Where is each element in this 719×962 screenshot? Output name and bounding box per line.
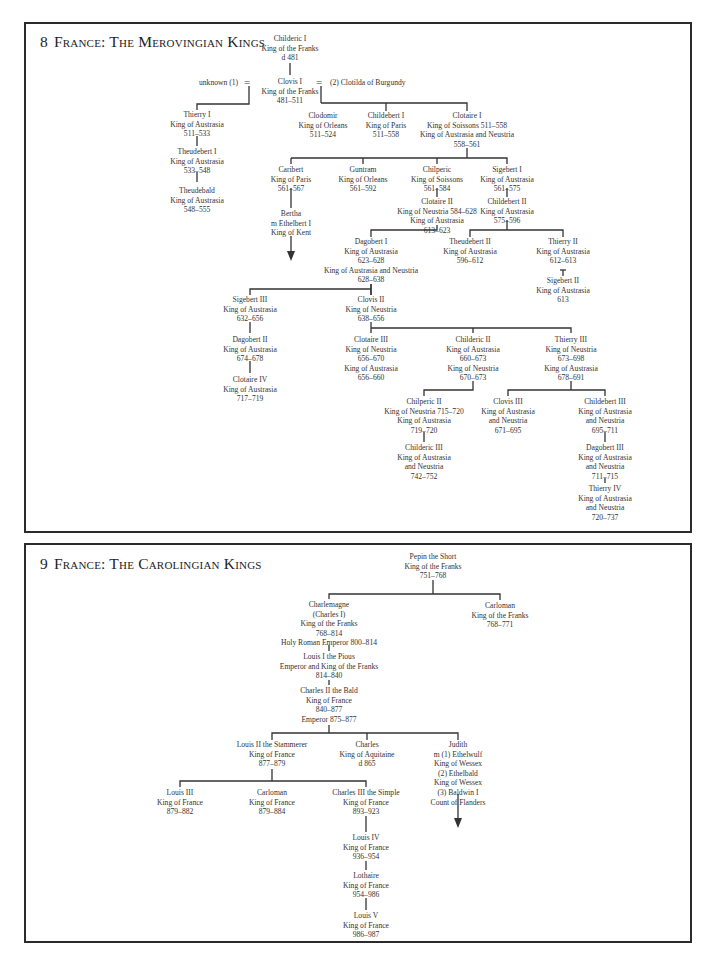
node-name: Thierry II bbox=[536, 237, 590, 247]
node-name: Charlemagne bbox=[281, 600, 377, 610]
node-title: King of the Franks bbox=[281, 619, 377, 629]
chart-title-carolingian: 9France: The Carolingian Kings bbox=[40, 555, 262, 573]
node-title: King of Austrasia bbox=[578, 453, 632, 463]
node-name: Bertha bbox=[271, 209, 311, 219]
node-title: King of Austrasia bbox=[480, 175, 534, 185]
node-dates: 623–628 bbox=[324, 256, 418, 266]
node-childebert-i: Childebert I King of Paris 511–558 bbox=[366, 111, 407, 140]
node-title: King of Austrasia bbox=[170, 120, 224, 130]
node-chilperic: Chilperic King of Soissons 561–584 bbox=[411, 165, 463, 194]
node-title: King of France bbox=[343, 921, 389, 931]
node-clovis-iii: Clovis III King of Austrasia and Neustri… bbox=[481, 397, 535, 435]
node-dates: d 481 bbox=[261, 53, 318, 63]
node-guntram: Guntram King of Orleans 561–592 bbox=[339, 165, 388, 194]
node-clodomir: Clodomir King of Orleans 511–524 bbox=[299, 111, 348, 140]
node-carloman-france: Carloman King of France 879–884 bbox=[249, 788, 295, 817]
node-dates: 814–840 bbox=[280, 671, 379, 681]
node-title: King of the Franks bbox=[261, 44, 318, 54]
node-title: King of Austrasia bbox=[480, 207, 534, 217]
node-dates: 742–752 bbox=[397, 472, 451, 482]
node-dates: 879–884 bbox=[249, 807, 295, 817]
node-dates: 678–691 bbox=[544, 373, 598, 383]
node-carloman-franks: Carloman King of the Franks 768–771 bbox=[471, 601, 528, 630]
node-sigebert-i: Sigebert I King of Austrasia 561–575 bbox=[480, 165, 534, 194]
node-title: Count of Flanders bbox=[431, 798, 486, 808]
chart-title-merovingian: 8France: The Merovingian Kings bbox=[40, 33, 265, 51]
node-dates: 561–584 bbox=[411, 184, 463, 194]
node-dates: 720–737 bbox=[578, 513, 632, 523]
node-title: King of Wessex bbox=[431, 759, 486, 769]
node-title: King of France bbox=[332, 798, 399, 808]
node-louis-iv: Louis IV King of France 936–954 bbox=[343, 833, 389, 862]
node-name: Childebert II bbox=[480, 197, 534, 207]
node-title: King of France bbox=[237, 750, 308, 760]
node-dates: 638–656 bbox=[345, 314, 396, 324]
node-clotaire-ii: Clotaire II King of Neustria 584–628 Kin… bbox=[397, 197, 477, 235]
node-dates: 670–673 bbox=[446, 373, 500, 383]
node-theudebert-ii: Theudebert II King of Austrasia 596–612 bbox=[443, 237, 497, 266]
chart-title-text: France: The Merovingian Kings bbox=[54, 33, 265, 50]
node-name: Clodomir bbox=[299, 111, 348, 121]
node-dates: 596–612 bbox=[443, 256, 497, 266]
node-thierry-iv: Thierry IV King of Austrasia and Neustri… bbox=[578, 484, 632, 522]
node-title: and Neustria bbox=[481, 416, 535, 426]
node-dates: 695–711 bbox=[578, 426, 632, 436]
node-name: Louis II the Stammerer bbox=[237, 740, 308, 750]
node-alias: (Charles I) bbox=[281, 610, 377, 620]
node-dates: 511–533 bbox=[170, 129, 224, 139]
node-title: King of Orleans bbox=[339, 175, 388, 185]
node-name: Clovis II bbox=[345, 295, 396, 305]
node-name: Carloman bbox=[249, 788, 295, 798]
node-title: King of Neustria bbox=[446, 364, 500, 374]
node-louis-i-the-pious: Louis I the Pious Emperor and King of th… bbox=[280, 652, 379, 681]
node-pepin-the-short: Pepin the Short King of the Franks 751–7… bbox=[404, 552, 461, 581]
node-dagobert-ii: Dagobert II King of Austrasia 674–678 bbox=[223, 335, 277, 364]
node-name: Clotaire III bbox=[344, 335, 398, 345]
node-dates: 768–814 bbox=[281, 629, 377, 639]
node-dates: 893–923 bbox=[332, 807, 399, 817]
node-name: Clotaire IV bbox=[223, 375, 277, 385]
node-dagobert-iii: Dagobert III King of Austrasia and Neust… bbox=[578, 443, 632, 481]
node-dates: 575–596 bbox=[480, 216, 534, 226]
node-name: Louis I the Pious bbox=[280, 652, 379, 662]
node-thierry-iii: Thierry III King of Neustria 673–698 Kin… bbox=[544, 335, 598, 383]
node-title: King of the Franks bbox=[261, 87, 318, 97]
chart-number: 8 bbox=[40, 33, 48, 50]
node-name: Louis V bbox=[343, 911, 389, 921]
node-dates: 628–638 bbox=[324, 275, 418, 285]
node-clovis-ii: Clovis II King of Neustria 638–656 bbox=[345, 295, 396, 324]
node-name: Charles II the Bald bbox=[300, 686, 358, 696]
node-clotaire-i: Clotaire I King of Soissons 511–558 King… bbox=[420, 111, 514, 149]
node-dates: d 865 bbox=[340, 759, 395, 769]
node-dates: 511–558 bbox=[366, 130, 407, 140]
node-name: Theudebert I bbox=[170, 147, 224, 157]
node-title: King of Austrasia bbox=[536, 247, 590, 257]
node-title: King of Kent bbox=[271, 228, 311, 238]
node-title: King of Neustria bbox=[345, 305, 396, 315]
node-name: Sigebert I bbox=[480, 165, 534, 175]
node-dates: 936–954 bbox=[343, 852, 389, 862]
node-title: King of Paris bbox=[271, 175, 312, 185]
node-title: King of Paris bbox=[366, 121, 407, 131]
node-spouse: m Ethelbert I bbox=[271, 219, 311, 229]
node-dates: 548–555 bbox=[170, 205, 224, 215]
node-dates: 632–656 bbox=[223, 314, 277, 324]
node-name: Theudebald bbox=[170, 186, 224, 196]
node-thierry-ii: Thierry II King of Austrasia 612–613 bbox=[536, 237, 590, 266]
node-title: and Neustria bbox=[397, 462, 451, 472]
node-title: Holy Roman Emperor 800–814 bbox=[281, 638, 377, 648]
node-chilperic-ii: Chilperic II King of Neustria 715–720 Ki… bbox=[384, 397, 464, 435]
node-judith: Judith m (1) Ethelwulf King of Wessex (2… bbox=[431, 740, 486, 807]
node-name: Pepin the Short bbox=[404, 552, 461, 562]
node-title: King of Austrasia bbox=[324, 247, 418, 257]
node-name: Childeric I bbox=[261, 34, 318, 44]
node-charlemagne: Charlemagne (Charles I) King of the Fran… bbox=[281, 600, 377, 648]
node-name: Thierry I bbox=[170, 110, 224, 120]
node-title: King of Neustria bbox=[344, 345, 398, 355]
node-clotaire-iv: Clotaire IV King of Austrasia 717–719 bbox=[223, 375, 277, 404]
node-title: King of Austrasia and Neustria bbox=[324, 266, 418, 276]
node-title: King of Soissons 511–558 bbox=[420, 121, 514, 131]
node-name: Dagobert I bbox=[324, 237, 418, 247]
node-dates: 717–719 bbox=[223, 394, 277, 404]
node-name: Childebert III bbox=[578, 397, 632, 407]
